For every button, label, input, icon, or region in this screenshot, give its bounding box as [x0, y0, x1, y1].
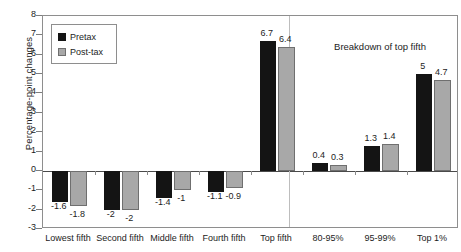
y-tick-label: 2	[16, 126, 36, 135]
x-tick-mark	[407, 171, 408, 175]
data-label: 0.3	[324, 153, 350, 162]
bar-post-tax-second-fifth	[122, 171, 139, 210]
black-square-icon	[58, 33, 66, 41]
bar-post-tax-middle-fifth	[174, 171, 191, 190]
y-tick-mark	[36, 228, 42, 229]
y-tick-label: -1	[16, 184, 36, 193]
bar-pretax-second-fifth	[104, 171, 121, 210]
x-axis-label: Top 1%	[387, 234, 461, 243]
data-label: -1	[168, 194, 194, 203]
data-label: -2	[116, 214, 142, 223]
data-label: 1.4	[376, 132, 402, 141]
legend: Pretax Post-tax	[51, 24, 117, 64]
y-tick-label: 5	[16, 68, 36, 77]
bar-post-tax-top-fifth	[278, 47, 295, 171]
bar-post-tax-top-1-	[434, 80, 451, 171]
bar-pretax-top-1-	[416, 74, 433, 171]
x-tick-mark	[251, 171, 252, 175]
bar-pretax-80-95-	[312, 163, 329, 171]
gray-square-icon	[58, 48, 66, 56]
bar-pretax-95-99-	[364, 146, 381, 171]
x-tick-mark	[95, 171, 96, 175]
bar-pretax-fourth-fifth	[208, 171, 225, 192]
x-tick-mark	[147, 171, 148, 175]
y-tick-label: 6	[16, 49, 36, 58]
y-tick-label: 1	[16, 146, 36, 155]
legend-item-post-tax: Post-tax	[58, 46, 103, 58]
y-tick-label: 4	[16, 87, 36, 96]
legend-label-post-tax: Post-tax	[70, 48, 103, 57]
legend-label-pretax: Pretax	[70, 33, 96, 42]
y-tick-label: 0	[16, 165, 36, 174]
bar-pretax-lowest-fifth	[52, 171, 69, 202]
annotation-breakdown-of-top-fifth: Breakdown of top fifth	[300, 41, 460, 52]
data-label: 6.4	[272, 35, 298, 44]
y-tick-label: 3	[16, 107, 36, 116]
bar-post-tax-lowest-fifth	[70, 171, 87, 206]
bar-post-tax-80-95-	[330, 165, 347, 171]
y-tick-label: -3	[16, 223, 36, 232]
x-tick-mark	[355, 171, 356, 175]
x-tick-mark	[303, 171, 304, 175]
x-tick-mark	[199, 171, 200, 175]
data-label: 4.7	[428, 68, 454, 77]
data-label: -0.9	[220, 192, 246, 201]
y-tick-label: 7	[16, 29, 36, 38]
data-label: -1.8	[64, 210, 90, 219]
bar-pretax-top-fifth	[260, 41, 277, 171]
y-tick-label: -2	[16, 204, 36, 213]
bar-post-tax-fourth-fifth	[226, 171, 243, 188]
y-tick-label: 8	[16, 10, 36, 19]
legend-item-pretax: Pretax	[58, 31, 96, 43]
bar-chart: Percentage-point changes 876543210-1-2-3…	[0, 0, 461, 252]
bar-post-tax-95-99-	[382, 144, 399, 171]
